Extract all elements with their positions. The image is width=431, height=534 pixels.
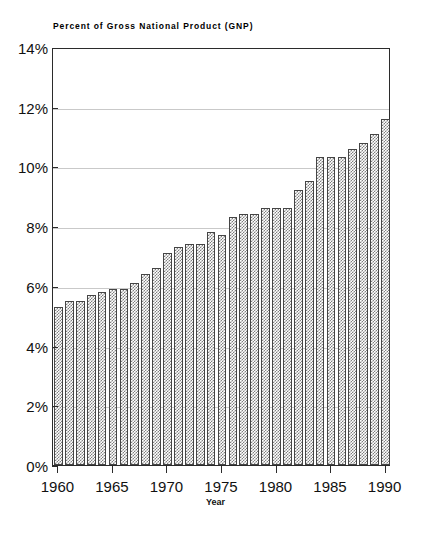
bar bbox=[109, 289, 118, 465]
x-tick-label: 1980 bbox=[259, 478, 292, 495]
y-tick-label: 0% bbox=[4, 459, 48, 474]
x-tick-label: 1975 bbox=[204, 478, 237, 495]
y-tick-mark bbox=[52, 48, 58, 49]
bar bbox=[163, 253, 172, 465]
x-tick-mark bbox=[330, 466, 331, 473]
y-tick-label: 14% bbox=[4, 41, 48, 56]
bar bbox=[381, 119, 390, 465]
bar bbox=[272, 208, 281, 465]
bar bbox=[65, 301, 74, 465]
y-tick-mark bbox=[52, 108, 58, 109]
bar bbox=[141, 274, 150, 465]
x-tick-label: 1960 bbox=[41, 478, 74, 495]
y-tick-mark bbox=[52, 227, 58, 228]
bar bbox=[76, 301, 85, 465]
bar bbox=[239, 214, 248, 465]
bar bbox=[261, 208, 270, 465]
bar bbox=[98, 292, 107, 465]
chart-title: Percent of Gross National Product (GNP) bbox=[53, 21, 253, 31]
bar bbox=[294, 190, 303, 465]
x-tick-label: 1970 bbox=[150, 478, 183, 495]
y-tick-label: 12% bbox=[4, 101, 48, 116]
y-tick-label: 4% bbox=[4, 340, 48, 355]
y-tick-label: 10% bbox=[4, 160, 48, 175]
plot-area bbox=[52, 48, 390, 466]
bar bbox=[327, 157, 336, 465]
bar bbox=[359, 143, 368, 465]
gnp-percent-bar-chart: Percent of Gross National Product (GNP) … bbox=[0, 0, 431, 534]
bar bbox=[152, 268, 161, 465]
bar bbox=[250, 214, 259, 465]
bar bbox=[283, 208, 292, 465]
x-tick-label: 1965 bbox=[95, 478, 128, 495]
x-tick-label: 1990 bbox=[368, 478, 401, 495]
y-tick-mark bbox=[52, 287, 58, 288]
y-tick-label: 2% bbox=[4, 399, 48, 414]
y-tick-mark bbox=[52, 167, 58, 168]
bar bbox=[174, 247, 183, 465]
y-tick-mark bbox=[52, 347, 58, 348]
bar bbox=[130, 283, 139, 465]
bar bbox=[348, 149, 357, 465]
y-axis: 0%2%4%6%8%10%12%14% bbox=[0, 0, 48, 534]
x-tick-mark bbox=[276, 466, 277, 473]
x-tick-mark bbox=[221, 466, 222, 473]
bar bbox=[87, 295, 96, 465]
bar bbox=[338, 157, 347, 465]
y-tick-label: 6% bbox=[4, 280, 48, 295]
x-tick-mark bbox=[112, 466, 113, 473]
bar bbox=[316, 157, 325, 465]
x-tick-mark bbox=[385, 466, 386, 473]
bar bbox=[218, 235, 227, 465]
x-axis-title: Year bbox=[0, 497, 431, 507]
y-tick-mark bbox=[52, 406, 58, 407]
bar bbox=[229, 217, 238, 465]
y-tick-label: 8% bbox=[4, 220, 48, 235]
bar bbox=[370, 134, 379, 465]
x-tick-mark bbox=[57, 466, 58, 473]
bar bbox=[305, 181, 314, 465]
bar bbox=[185, 244, 194, 465]
bar-series bbox=[53, 49, 389, 465]
bar bbox=[207, 232, 216, 465]
x-tick-label: 1985 bbox=[313, 478, 346, 495]
bar bbox=[54, 307, 63, 465]
x-tick-mark bbox=[166, 466, 167, 473]
bar bbox=[120, 289, 129, 465]
bar bbox=[196, 244, 205, 465]
